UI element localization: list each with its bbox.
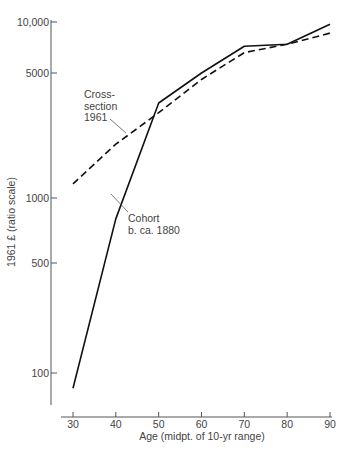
y-tick-label: 10,000 (17, 16, 49, 28)
y-tick-label: 1000 (26, 192, 50, 204)
series-lines (73, 24, 330, 388)
x-tick-label: 60 (196, 418, 208, 430)
annotations: Cross-section1961Cohortb. ca. 1880 (84, 88, 180, 236)
line-chart: 10,00050001000500100 30405060708090 1961… (0, 0, 360, 454)
cross-section-annotation: Cross-section1961 (84, 88, 117, 123)
x-axis-label: Age (midpt. of 10-yr range) (139, 430, 264, 442)
y-axis: 10,00050001000500100 (17, 16, 57, 406)
y-axis-label: 1961 £ (ratio scale) (5, 177, 17, 267)
x-tick-label: 80 (281, 418, 293, 430)
y-tick-label: 100 (31, 367, 49, 379)
x-tick-label: 30 (67, 418, 79, 430)
x-axis: 30405060708090 (61, 412, 336, 430)
cohort-annotation: Cohortb. ca. 1880 (128, 212, 180, 236)
x-tick-label: 90 (324, 418, 336, 430)
y-tick-label: 500 (31, 257, 49, 269)
x-tick-label: 70 (238, 418, 250, 430)
y-tick-label: 5000 (26, 67, 50, 79)
x-tick-label: 40 (110, 418, 122, 430)
x-tick-label: 50 (153, 418, 165, 430)
